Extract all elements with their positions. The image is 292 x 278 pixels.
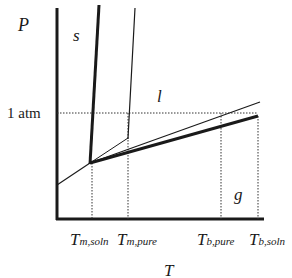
tick-label-tb-pure: Tb,pure bbox=[197, 231, 234, 248]
tick-label-tm-soln: Tm,soln bbox=[70, 231, 109, 248]
solution-liquid-gas-curve bbox=[90, 116, 258, 163]
tick-sub: m,pure bbox=[126, 235, 156, 247]
region-label-solid: s bbox=[73, 27, 80, 44]
region-label-gas: g bbox=[234, 186, 243, 203]
y-axis-label: P bbox=[18, 16, 29, 34]
pure-sublimation-segment bbox=[90, 138, 128, 163]
solution-solid-liquid-curve bbox=[90, 5, 99, 164]
x-axis-label: T bbox=[164, 262, 173, 278]
pure-solid-liquid-curve bbox=[128, 8, 135, 139]
region-label-liquid: l bbox=[157, 88, 162, 105]
tick-label-tm-pure: Tm,pure bbox=[117, 231, 157, 248]
one-atm-label: 1 atm bbox=[7, 106, 41, 121]
pure-liquid-gas-curve bbox=[90, 102, 260, 163]
tick-sub: b,soln bbox=[258, 235, 285, 247]
tick-sub: b,pure bbox=[206, 235, 234, 247]
solid-gas-curve bbox=[57, 163, 90, 185]
tick-label-tb-soln: Tb,soln bbox=[249, 231, 285, 248]
tick-sub: m,soln bbox=[79, 235, 108, 247]
